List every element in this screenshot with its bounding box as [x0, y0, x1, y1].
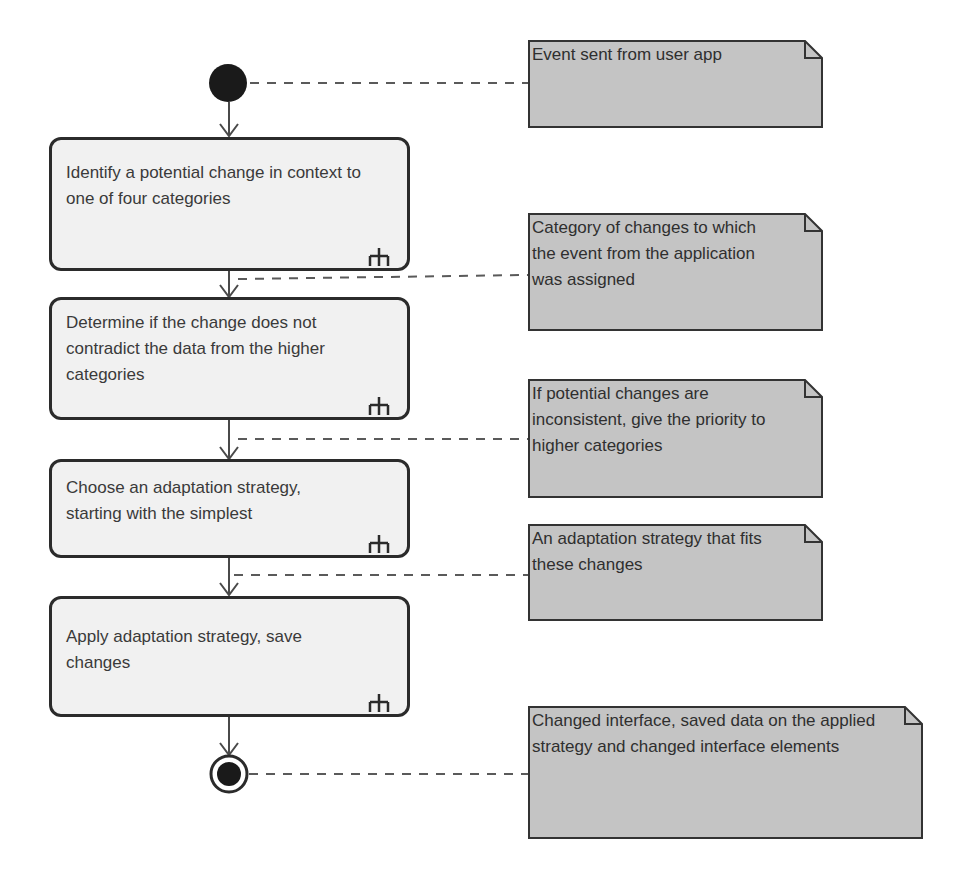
action-label: Choose an adaptation strategy, starting … — [66, 475, 356, 527]
control-flow-start-to-a1[interactable] — [220, 102, 238, 136]
rake-icon — [367, 396, 391, 416]
rake-icon — [367, 247, 391, 267]
note-text: Event sent from user app — [532, 42, 792, 68]
control-flow-a4-to-final[interactable] — [220, 716, 238, 755]
note-text: An adaptation strategy that fits these c… — [532, 526, 792, 578]
note-adaptation-strategy[interactable]: An adaptation strategy that fits these c… — [528, 524, 823, 621]
action-label: Determine if the change does not contrad… — [66, 310, 376, 388]
rake-icon — [367, 693, 391, 713]
rake-icon — [367, 534, 391, 554]
note-category-assigned[interactable]: Category of changes to which the event f… — [528, 213, 823, 331]
action-apply-strategy[interactable]: Apply adaptation strategy, save changes — [49, 596, 410, 717]
action-identify-change[interactable]: Identify a potential change in context t… — [49, 137, 410, 271]
note-anchor-n2 — [238, 275, 528, 279]
note-event-sent[interactable]: Event sent from user app — [528, 40, 823, 128]
action-label: Apply adaptation strategy, save changes — [66, 624, 356, 676]
note-text: Changed interface, saved data on the app… — [532, 708, 882, 760]
action-choose-strategy[interactable]: Choose an adaptation strategy, starting … — [49, 459, 410, 558]
note-text: If potential changes are inconsistent, g… — [532, 381, 792, 459]
control-flow-a1-to-a2[interactable] — [220, 270, 238, 297]
action-label: Identify a potential change in context t… — [66, 160, 366, 212]
initial-node[interactable] — [209, 64, 247, 102]
control-flow-a2-to-a3[interactable] — [220, 419, 238, 459]
action-determine-contradiction[interactable]: Determine if the change does not contrad… — [49, 297, 410, 420]
final-node[interactable] — [211, 756, 247, 792]
note-inconsistent-priority[interactable]: If potential changes are inconsistent, g… — [528, 379, 823, 498]
note-text: Category of changes to which the event f… — [532, 215, 772, 293]
note-changed-interface[interactable]: Changed interface, saved data on the app… — [528, 706, 923, 839]
